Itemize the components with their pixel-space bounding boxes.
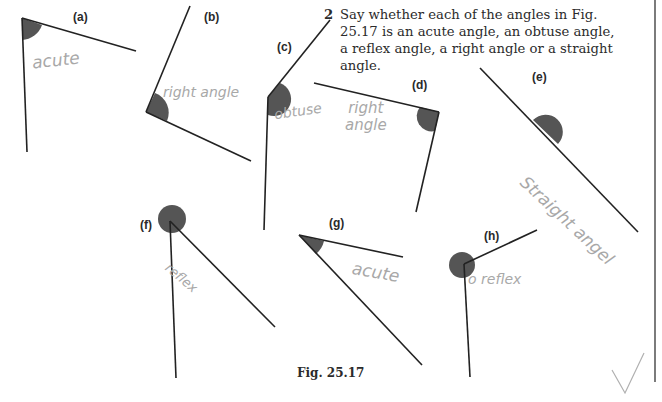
tick-mark bbox=[612, 353, 644, 393]
question-number: 2 bbox=[324, 6, 333, 23]
answer-b: right angle bbox=[163, 84, 239, 100]
question: 2 Say whether each of the angles in Fig.… bbox=[340, 6, 620, 74]
label-h: (h) bbox=[484, 229, 499, 243]
answer-d-line2: angle bbox=[345, 117, 387, 134]
label-d: (d) bbox=[412, 78, 427, 92]
label-g: (g) bbox=[329, 216, 344, 230]
answer-h: o reflex bbox=[468, 271, 521, 287]
question-text: Say whether each of the angles in Fig. 2… bbox=[340, 7, 614, 73]
angle-g bbox=[299, 235, 422, 365]
label-a: (a) bbox=[73, 10, 88, 24]
angle-f bbox=[158, 205, 275, 378]
label-c: (c) bbox=[277, 40, 292, 54]
figure-caption: Fig. 25.17 bbox=[297, 366, 364, 380]
angle-h bbox=[449, 230, 537, 377]
label-f: (f) bbox=[140, 218, 152, 232]
answer-d-line1: right bbox=[345, 100, 387, 117]
label-b: (b) bbox=[204, 10, 219, 24]
angle-a bbox=[22, 18, 136, 152]
answer-d: right angle bbox=[345, 100, 387, 134]
angle-c bbox=[264, 20, 330, 230]
